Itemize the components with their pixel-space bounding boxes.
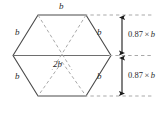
- side-label-upper-right: b: [97, 28, 102, 37]
- dimension-upper-variable: b: [151, 29, 155, 39]
- side-label-lower-left: b: [15, 72, 20, 81]
- dimension-lower-times: ×: [144, 70, 149, 80]
- hexagon-figure: b b b b b 2b 0.87×b 0.87×b: [0, 0, 164, 115]
- side-label-upper-left: b: [15, 28, 20, 37]
- dimension-lower-value: 0.87: [128, 70, 143, 80]
- dimension-label-upper: 0.87×b: [128, 30, 155, 39]
- dimension-upper-times: ×: [144, 29, 149, 39]
- dashed-line-center-to-bottomright: [62, 62, 86, 96]
- dimension-label-lower: 0.87×b: [128, 71, 155, 80]
- dimension-upper-value: 0.87: [128, 29, 143, 39]
- dimension-lower-variable: b: [151, 70, 155, 80]
- diagonal-label: 2b: [53, 60, 62, 69]
- side-label-top: b: [59, 2, 64, 11]
- side-label-lower-right: b: [97, 72, 102, 81]
- hexagon-diagram-svg: [0, 0, 164, 115]
